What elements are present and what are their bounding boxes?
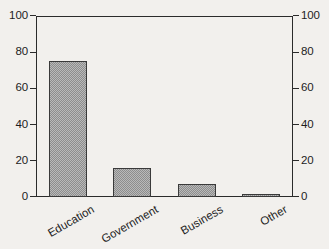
y-axis-right-tick — [293, 160, 299, 161]
x-axis-label-text: Government — [100, 203, 161, 245]
y-axis-left-tick-label: 20 — [0, 154, 28, 166]
y-axis-left: 100806040200 — [0, 0, 28, 249]
y-axis-left-tick-label: 80 — [0, 45, 28, 57]
y-axis-right-tick — [293, 52, 299, 53]
x-axis-label-education: Education — [46, 203, 96, 239]
bar-government — [113, 168, 151, 197]
y-axis-left-tick — [30, 15, 36, 16]
x-axis-label-government: Government — [100, 203, 161, 245]
y-axis-left-tick-label: 40 — [0, 118, 28, 130]
x-axis-label-text: Education — [46, 203, 96, 239]
x-axis-label-text: Business — [178, 203, 224, 237]
x-axis-label-business: Business — [178, 203, 224, 237]
y-axis-right-tick — [293, 88, 299, 89]
y-axis-right-tick-label: 40 — [301, 118, 329, 130]
y-axis-left-tick — [30, 196, 36, 197]
y-axis-left-tick-label: 100 — [0, 9, 28, 21]
y-axis-left-tick — [30, 124, 36, 125]
y-axis-right-tick-label: 0 — [301, 190, 329, 202]
bars-layer — [36, 16, 293, 197]
y-axis-right-tick-label: 60 — [301, 81, 329, 93]
y-axis-left-tick — [30, 160, 36, 161]
y-axis-left-tick-label: 0 — [0, 190, 28, 202]
bar-education — [49, 61, 87, 197]
y-axis-right-tick-label: 20 — [301, 154, 329, 166]
y-axis-right-tick-label: 100 — [301, 9, 329, 21]
bar-business — [178, 184, 216, 197]
y-axis-right-tick — [293, 124, 299, 125]
y-axis-right: 100806040200 — [301, 0, 329, 249]
x-axis-label-text: Other — [258, 203, 289, 228]
y-axis-right-tick-label: 80 — [301, 45, 329, 57]
y-axis-right-tick — [293, 15, 299, 16]
y-axis-left-tick-label: 60 — [0, 81, 28, 93]
bar-chart-figure: 100806040200 100806040200 EducationGover… — [0, 0, 329, 249]
y-axis-left-tick — [30, 88, 36, 89]
x-axis-category-labels: EducationGovernmentBusinessOther — [36, 197, 293, 249]
x-axis-label-other: Other — [258, 203, 289, 228]
y-axis-right-tick — [293, 196, 299, 197]
y-axis-left-tick — [30, 52, 36, 53]
